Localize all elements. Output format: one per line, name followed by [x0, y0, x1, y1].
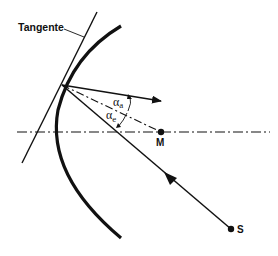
center-label: M	[156, 137, 164, 148]
source-label: S	[237, 224, 244, 235]
source-point-s	[228, 226, 234, 232]
angle-incident-label: αe	[106, 108, 116, 124]
angle-reflected-label: αa	[113, 95, 123, 110]
tangent-leader-line	[64, 29, 84, 37]
incident-ray	[62, 85, 231, 229]
incident-ray-arrow-icon	[164, 172, 177, 185]
mirror-reflection-diagram: Tangente M S αa αe	[0, 0, 278, 256]
tangent-line	[22, 12, 97, 163]
tangent-label: Tangente	[18, 21, 64, 33]
center-point-m	[158, 129, 164, 135]
